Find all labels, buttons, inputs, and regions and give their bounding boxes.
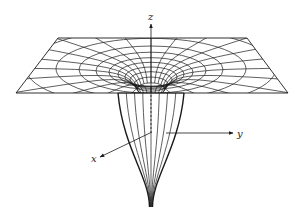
funnel-line (153, 93, 185, 207)
x-axis (100, 132, 152, 157)
funnel-throat (118, 93, 184, 207)
meridian-line (56, 85, 144, 119)
x-axis-label: x (91, 153, 97, 164)
meridian-line (0, 68, 137, 89)
z-axis-label: z (147, 11, 154, 22)
meridian-line (0, 53, 138, 88)
gravity-well-diagram: z y x (0, 0, 304, 214)
meridian-line (165, 53, 305, 88)
meridian-line (158, 85, 246, 119)
surface-mesh (0, 9, 304, 127)
latitude-ring (0, 16, 304, 119)
funnel-line (118, 93, 150, 207)
y-axis-label: y (236, 128, 243, 139)
axes (100, 24, 233, 157)
